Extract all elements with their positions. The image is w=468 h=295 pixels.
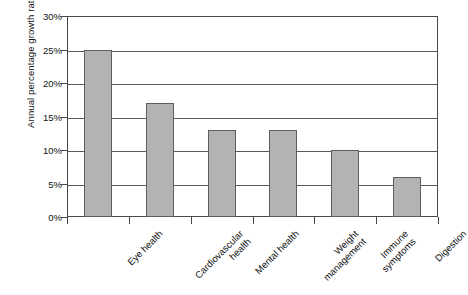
y-tick-mark <box>60 83 67 84</box>
x-tick-mark <box>314 217 315 224</box>
x-tick-label-line: Mental health <box>253 228 301 276</box>
y-tick-label: 30% <box>22 11 62 22</box>
x-tick-mark <box>438 217 439 224</box>
x-tick-mark <box>253 217 254 224</box>
y-axis-title: Annual percentage growth rate <box>25 0 36 152</box>
y-tick-label: 20% <box>22 78 62 89</box>
x-tick-label: Immunesymptoms <box>372 228 418 274</box>
y-tick-label: 5% <box>22 178 62 189</box>
bar <box>269 130 297 217</box>
x-tick-label-line: Eye health <box>125 228 165 268</box>
bar <box>331 150 359 217</box>
y-tick-mark <box>60 217 67 218</box>
y-tick-label: 10% <box>22 145 62 156</box>
x-tick-mark <box>376 217 377 224</box>
y-tick-label: 15% <box>22 111 62 122</box>
x-tick-label: Eye health <box>125 228 165 268</box>
bar <box>84 50 112 218</box>
y-tick-mark <box>60 50 67 51</box>
x-tick-label-line: Digestion <box>433 228 468 264</box>
x-tick-label: Weightmanagement <box>313 228 368 283</box>
x-tick-label: Cardiovascularhealth <box>193 228 253 288</box>
y-tick-mark <box>60 16 67 17</box>
y-tick-mark <box>60 117 67 118</box>
bar <box>393 177 421 217</box>
x-tick-mark <box>191 217 192 224</box>
x-tick-mark <box>67 217 68 224</box>
x-tick-mark <box>129 217 130 224</box>
x-tick-label: Mental health <box>253 228 301 276</box>
y-tick-mark <box>60 184 67 185</box>
y-tick-label: 0% <box>22 212 62 223</box>
bar <box>146 103 174 217</box>
y-tick-mark <box>60 150 67 151</box>
x-tick-label: Digestion <box>433 228 468 264</box>
bar <box>208 130 236 217</box>
y-tick-label: 25% <box>22 44 62 55</box>
bar-series <box>67 16 438 217</box>
